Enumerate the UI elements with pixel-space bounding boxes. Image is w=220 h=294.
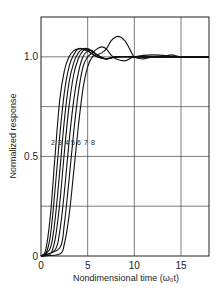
x-tick-label: 15: [175, 260, 187, 271]
series-line-3: [41, 48, 209, 256]
curve-label-4: 4: [65, 139, 69, 146]
curve-label-6: 6: [77, 139, 81, 146]
line-chart: 05101500.51.0 2345678 Nondimensional tim…: [0, 0, 220, 294]
series-line-8: [41, 36, 209, 256]
series-curves: [41, 36, 209, 256]
y-axis-label: Normalized response: [8, 93, 18, 178]
x-tick-label: 0: [38, 260, 44, 271]
y-tick-label: 0: [32, 251, 38, 262]
curve-labels: 2345678: [51, 139, 95, 146]
curve-label-3: 3: [58, 139, 62, 146]
axis-ticks: 05101500.51.0: [24, 51, 187, 271]
y-tick-label: 1.0: [24, 51, 38, 62]
x-axis-label: Nondimensional time (ω₀t): [73, 273, 179, 283]
x-tick-label: 10: [129, 260, 141, 271]
curve-label-2: 2: [51, 139, 55, 146]
curve-label-5: 5: [71, 139, 75, 146]
x-tick-label: 5: [85, 260, 91, 271]
curve-label-8: 8: [91, 139, 95, 146]
y-tick-label: 0.5: [24, 151, 38, 162]
curve-label-7: 7: [84, 139, 88, 146]
